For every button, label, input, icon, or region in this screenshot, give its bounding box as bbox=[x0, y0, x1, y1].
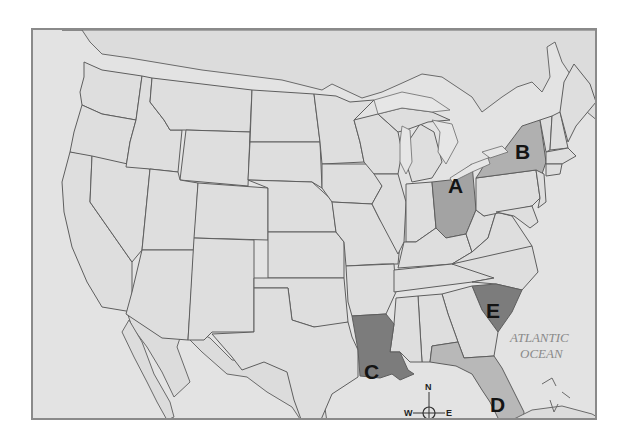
state-connecticut bbox=[546, 164, 562, 176]
state-new-york-B[interactable] bbox=[476, 120, 546, 178]
state-new-mexico bbox=[188, 238, 254, 340]
state-colorado bbox=[194, 183, 268, 240]
atlantic-label-2: OCEAN bbox=[520, 346, 564, 361]
compass-n: N bbox=[425, 382, 432, 392]
state-wyoming bbox=[180, 130, 250, 186]
label-D: D bbox=[490, 393, 505, 416]
us-map: A B C D E ATLANTIC OCEAN PACIFIC OCEAN N… bbox=[33, 30, 597, 420]
map-frame: A B C D E ATLANTIC OCEAN PACIFIC OCEAN N… bbox=[31, 28, 597, 420]
cuba-land bbox=[512, 406, 597, 420]
state-utah bbox=[142, 169, 198, 250]
label-C: C bbox=[364, 360, 379, 383]
atlantic-label-1: ATLANTIC bbox=[509, 330, 569, 345]
compass-w: W bbox=[404, 408, 413, 418]
state-kansas bbox=[268, 232, 344, 278]
compass-rose-icon: N S E W bbox=[404, 382, 452, 420]
state-arkansas bbox=[346, 264, 396, 316]
label-E: E bbox=[486, 299, 500, 322]
label-B: B bbox=[515, 140, 530, 163]
compass-e: E bbox=[446, 408, 452, 418]
state-north-dakota bbox=[250, 90, 320, 142]
label-A: A bbox=[448, 174, 463, 197]
